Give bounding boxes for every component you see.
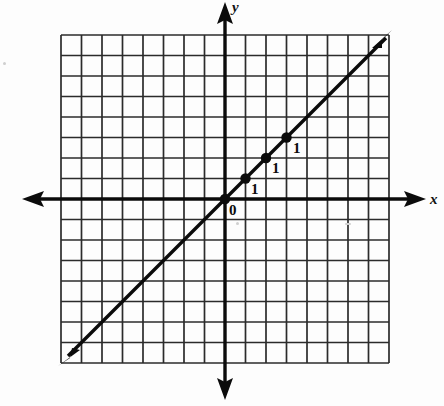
origin-label: 0: [229, 203, 237, 218]
run-label-2: 1: [272, 161, 280, 176]
point-2-2[interactable]: [261, 153, 271, 163]
point-1-1[interactable]: [240, 173, 250, 183]
scan-speck: [236, 222, 239, 225]
scan-speck: [3, 62, 6, 65]
point-3-3[interactable]: [281, 132, 291, 142]
scan-speck: [345, 223, 351, 225]
run-label-3: 1: [293, 141, 301, 156]
x-axis-label: x: [430, 192, 438, 207]
graph-figure: x y 0 1 1 1: [0, 0, 444, 406]
y-axis-label: y: [232, 0, 239, 15]
coordinate-plane: [0, 0, 444, 406]
run-label-1: 1: [251, 182, 259, 197]
